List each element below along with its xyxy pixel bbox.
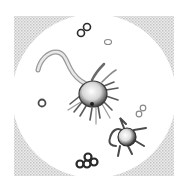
microscope-field-illustration xyxy=(0,0,182,190)
